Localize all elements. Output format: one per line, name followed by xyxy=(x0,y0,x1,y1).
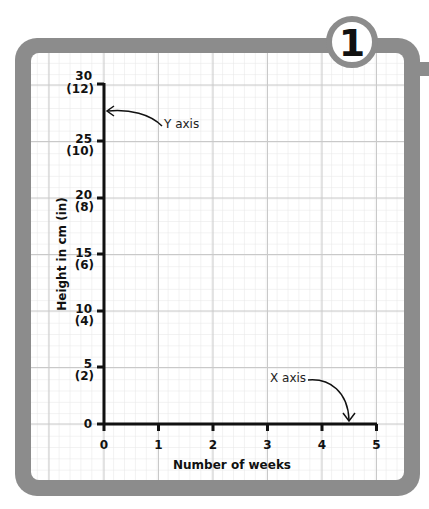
y-axis-label: Y axis xyxy=(163,117,199,131)
y-tick-15-in: (6) xyxy=(75,258,94,272)
y-tick-0: 0 xyxy=(84,417,92,431)
y-axis-title: Height in cm (in) xyxy=(55,197,69,311)
x-axis-title: Number of weeks xyxy=(173,458,291,472)
y-tick-30: 30 xyxy=(75,69,92,83)
step-number-badge: 1 xyxy=(329,19,375,65)
x-tick-4: 4 xyxy=(318,438,326,452)
x-tick-5: 5 xyxy=(372,438,380,452)
y-tick-5-in: (2) xyxy=(75,369,94,383)
x-tick-3: 3 xyxy=(263,438,271,452)
x-tick-1: 1 xyxy=(154,438,162,452)
y-tick-30-in: (12) xyxy=(66,82,94,96)
y-tick-10-in: (4) xyxy=(75,314,94,328)
step-number: 1 xyxy=(339,21,365,65)
y-tick-20-in: (8) xyxy=(75,200,94,214)
y-tick-25-in: (10) xyxy=(66,144,94,158)
graph-figure: 1 30 (12) 25 (10) 20 (8) 15 (6) 10 (4) 5… xyxy=(0,0,429,509)
x-axis-label: X axis xyxy=(270,371,306,385)
x-tick-2: 2 xyxy=(209,438,217,452)
x-tick-0: 0 xyxy=(100,438,108,452)
